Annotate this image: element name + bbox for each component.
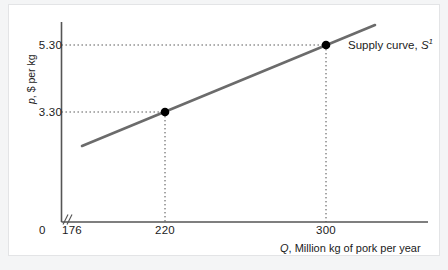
supply-curve-line [82, 25, 375, 146]
y-tick-label-330: 3.30 [16, 107, 62, 119]
figure-root: p, $ per kg 5.30 3.30 0 176 220 300 Q, M… [0, 0, 448, 270]
series-label-superscript: 1 [429, 37, 433, 46]
y-axis-title: p, $ per kg [26, 54, 37, 104]
axis-break-icon [63, 215, 72, 225]
series-label-symbol: S [421, 39, 429, 51]
x-axis-title: Q, Million kg of pork per year [280, 243, 421, 254]
series-label-supply-curve: Supply curve, S1 [348, 40, 433, 52]
series-label-text: Supply curve, [348, 39, 421, 51]
x-tick-label-300: 300 [306, 225, 346, 237]
x-tick-label-220: 220 [145, 225, 185, 237]
y-axis-symbol: p [25, 98, 37, 104]
data-point-marker [161, 108, 170, 117]
x-axis-title-rest: , Million kg of pork per year [289, 242, 421, 254]
origin-label: 0 [39, 225, 46, 237]
data-point-marker [322, 41, 331, 50]
x-axis-symbol: Q [280, 242, 289, 254]
y-axis-title-rest: , $ per kg [25, 54, 37, 98]
x-tick-label-176: 176 [52, 225, 92, 237]
y-tick-label-530: 5.30 [16, 40, 62, 52]
